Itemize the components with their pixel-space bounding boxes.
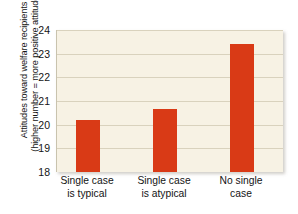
y-tick-label-24: 24 <box>30 24 50 36</box>
plot-area <box>56 30 283 172</box>
x-tick-line-2: is atypical <box>121 188 207 201</box>
x-tick-label-single-case-is-typical: Single case is typical <box>44 175 130 201</box>
y-tick-label-21: 21 <box>30 95 50 107</box>
bar-chart: Attitudes toward welfare recipients (hig… <box>0 0 298 214</box>
x-tick-line-2: is typical <box>44 188 130 201</box>
plot-inner <box>57 30 283 172</box>
y-tick-label-20: 20 <box>30 119 50 131</box>
bar-single-case-is-atypical <box>153 109 177 172</box>
x-tick-label-single-case-is-atypical: Single case is atypical <box>121 175 207 201</box>
x-tick-line-1: Single case <box>137 175 190 186</box>
gridline-24 <box>57 30 283 31</box>
y-tick-label-19: 19 <box>30 142 50 154</box>
x-tick-line-1: Single case <box>60 175 113 186</box>
x-tick-line-1: No single <box>220 175 263 186</box>
y-tick-label-22: 22 <box>30 71 50 83</box>
y-tick-label-23: 23 <box>30 48 50 60</box>
y-axis-tick-labels: 24 23 22 21 20 19 18 <box>28 30 50 172</box>
x-tick-line-2: case <box>198 188 284 201</box>
bar-single-case-is-typical <box>76 120 100 172</box>
x-tick-label-no-single-case: No single case <box>198 175 284 201</box>
bar-no-single-case <box>230 44 254 172</box>
x-axis-tick-labels: Single case is typical Single case is at… <box>56 175 282 211</box>
